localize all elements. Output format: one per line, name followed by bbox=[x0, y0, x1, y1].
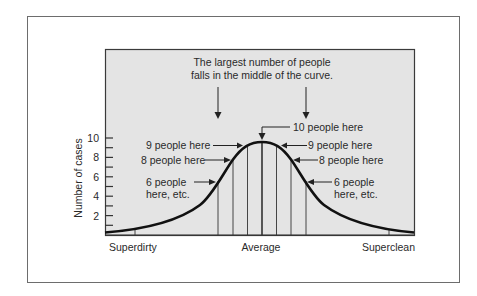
x-label-average: Average bbox=[242, 241, 281, 253]
label-six-right-line2: here, etc. bbox=[334, 188, 378, 200]
x-label-superdirty: Superdirty bbox=[109, 241, 158, 253]
label-nine-left: 9 people here bbox=[146, 139, 210, 151]
label-nine-right: 9 people here bbox=[308, 139, 372, 151]
y-tick-6: 6 bbox=[93, 171, 99, 183]
y-tick-10: 10 bbox=[87, 132, 99, 144]
label-six-left-line1: 6 people bbox=[146, 176, 186, 188]
label-ten-people: 10 people here bbox=[293, 121, 363, 133]
y-tick-4: 4 bbox=[93, 190, 99, 202]
y-tick-2: 2 bbox=[93, 210, 99, 222]
y-tick-8: 8 bbox=[93, 151, 99, 163]
annotation-line-1: The largest number of people bbox=[193, 56, 330, 68]
y-axis-label: Number of cases bbox=[72, 138, 84, 217]
label-eight-right: 8 people here bbox=[319, 154, 383, 166]
label-six-left-line2: here, etc. bbox=[146, 188, 190, 200]
bell-curve-diagram: 2 4 6 8 10 Number of cases The largest n… bbox=[0, 0, 477, 296]
annotation-line-2: falls in the middle of the curve. bbox=[191, 69, 333, 81]
label-eight-left: 8 people here bbox=[141, 154, 205, 166]
label-six-right-line1: 6 people bbox=[334, 176, 374, 188]
x-label-superclean: Superclean bbox=[362, 241, 415, 253]
